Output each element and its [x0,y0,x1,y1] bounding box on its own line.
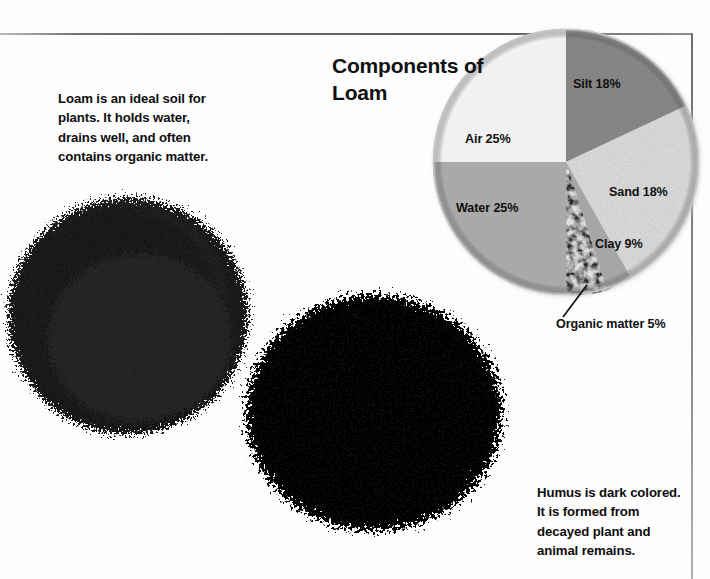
pie-label-clay: Clay 9% [595,237,643,251]
loam-caption-line-2: plants. It holds water, [58,108,258,127]
pie-label-sand: Sand 18% [609,185,668,199]
page-title-line-1: Components [332,54,458,77]
loam-caption-line-1: Loam is an ideal soil for [58,89,258,108]
humus-caption-line-3: decayed plant and [537,522,702,541]
loam-caption: Loam is an ideal soil for plants. It hol… [58,89,258,166]
page-root: Air 25% Silt 18% Sand 18% Clay 9% Water … [0,0,710,579]
humus-caption: Humus is dark colored. It is formed from… [537,483,702,560]
humus-caption-line-1: Humus is dark colored. [537,483,702,502]
humus-soil-photo [226,278,536,563]
pie-label-silt: Silt 18% [573,77,621,91]
loam-caption-line-3: drains well, and often [58,128,258,147]
humus-caption-line-4: animal remains. [537,541,702,560]
pie-label-organic-matter: Organic matter 5% [556,317,666,331]
organic-matter-leader-line [555,283,595,319]
pie-label-air: Air 25% [465,132,511,146]
humus-caption-line-2: It is formed from [537,502,702,521]
pie-label-water: Water 25% [456,201,518,215]
page-title: Components of Loam [332,52,502,107]
loam-caption-line-4: contains organic matter. [58,147,258,166]
